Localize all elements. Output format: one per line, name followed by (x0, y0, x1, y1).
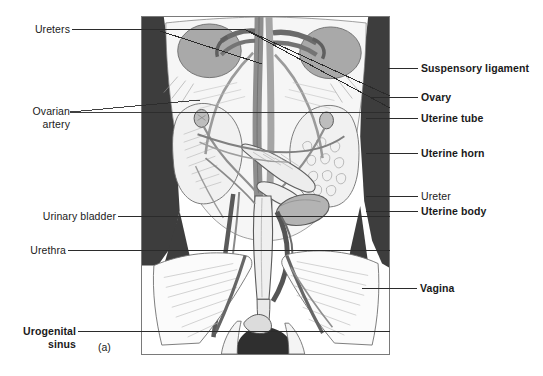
female-reproductive-tract-illustration (142, 17, 389, 354)
label-urogenital-sinus-line2: sinus (8, 338, 76, 351)
label-urogenital-sinus-line1: Urogenital (8, 325, 76, 338)
label-uterine-horn: Uterine horn (421, 147, 485, 160)
label-urogenital-sinus: Urogenital sinus (8, 325, 76, 350)
label-suspensory-ligament: Suspensory ligament (421, 62, 529, 75)
label-urinary-bladder-text: Urinary bladder (43, 210, 116, 222)
label-uterine-body-text: Uterine body (421, 205, 486, 217)
label-ovary: Ovary (421, 91, 451, 104)
label-urinary-bladder: Urinary bladder (8, 210, 116, 223)
label-ovarian-artery-line1: Ovarian (8, 105, 70, 118)
label-uterine-horn-text: Uterine horn (421, 147, 485, 159)
label-ureter: Ureter (421, 190, 451, 203)
label-uterine-body: Uterine body (421, 205, 486, 218)
label-ovarian-artery: Ovarian artery (8, 105, 70, 130)
anatomy-figure: Ureters Ovarian artery Urinary bladder U… (0, 0, 543, 376)
illustration-frame (141, 16, 390, 355)
label-vagina-text: Vagina (420, 282, 454, 294)
label-ureters-text: Ureters (35, 23, 70, 35)
label-suspensory-ligament-text: Suspensory ligament (421, 62, 529, 74)
label-ureter-text: Ureter (421, 190, 451, 202)
label-urethra: Urethra (8, 244, 66, 257)
label-ovarian-artery-line2: artery (8, 118, 70, 131)
label-vagina: Vagina (420, 282, 454, 295)
label-uterine-tube: Uterine tube (421, 112, 483, 125)
label-ovary-text: Ovary (421, 91, 451, 103)
label-ureters: Ureters (8, 23, 70, 36)
label-uterine-tube-text: Uterine tube (421, 112, 483, 124)
panel-letter: (a) (98, 341, 111, 353)
label-urethra-text: Urethra (30, 244, 66, 256)
